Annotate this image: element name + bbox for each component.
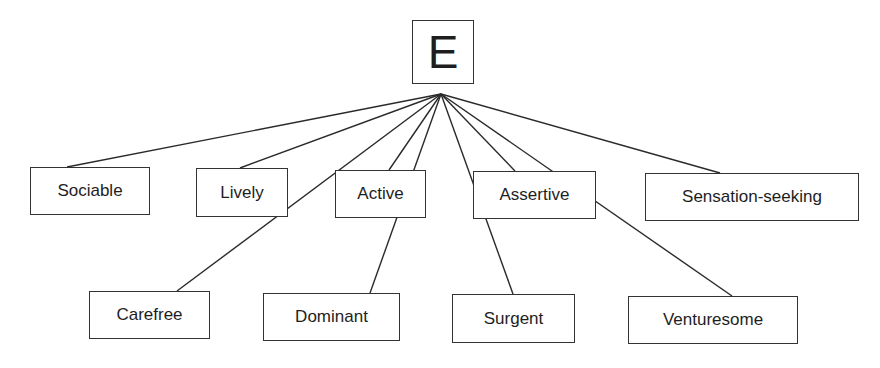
- trait-node-sociable: Sociable: [30, 167, 150, 215]
- connector-active: [389, 94, 441, 170]
- trait-node-carefree: Carefree: [89, 291, 210, 339]
- trait-node-surgent: Surgent: [452, 294, 575, 343]
- connector-lively: [240, 94, 441, 168]
- connector-sociable: [67, 94, 441, 167]
- trait-node-dominant: Dominant: [263, 293, 400, 341]
- root-node-e: E: [412, 20, 474, 84]
- trait-node-assertive: Assertive: [473, 171, 596, 219]
- connector-sensation-seeking: [441, 94, 720, 173]
- trait-node-sensation-seeking: Sensation-seeking: [645, 173, 859, 221]
- connector-assertive: [441, 94, 515, 171]
- extraversion-hierarchy-diagram: E SociableLivelyActiveAssertiveSensation…: [0, 0, 880, 368]
- trait-node-active: Active: [335, 170, 426, 218]
- trait-node-venturesome: Venturesome: [628, 296, 798, 344]
- trait-node-lively: Lively: [196, 168, 288, 217]
